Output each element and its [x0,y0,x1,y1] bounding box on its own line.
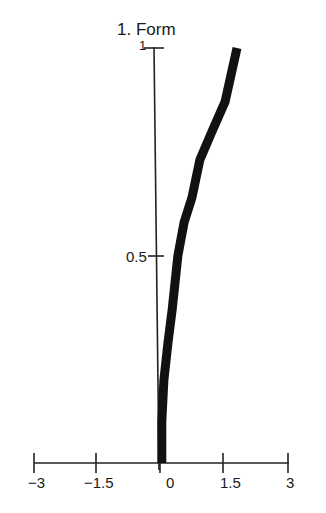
form-curve [162,48,237,463]
x-tick-label-0: 0 [166,474,174,491]
x-tick-label--1.5: −1.5 [84,474,114,491]
x-tick-label--3: −3 [28,474,45,491]
x-tick-label-1.5: 1.5 [220,474,241,491]
y-tick-label-0.5: 0.5 [126,248,147,265]
x-tick-label-3: 3 [286,474,294,491]
chart-title: 1. Form [117,20,176,40]
chart-plot [0,0,326,513]
y-tick-label-1: 1 [139,38,146,53]
